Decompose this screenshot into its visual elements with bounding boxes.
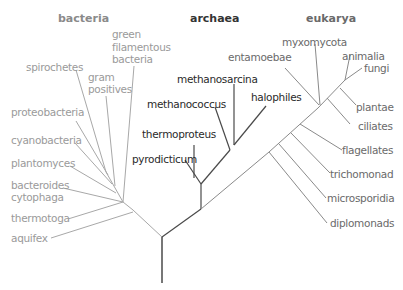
label-filamentous: filamentous (112, 41, 171, 53)
header-archaea: archaea (190, 12, 240, 25)
label-plantomyces: plantomyces (11, 157, 75, 169)
header-bacteria: bacteria (58, 12, 109, 25)
label-halophiles: halophiles (251, 91, 302, 103)
header-eukarya: eukarya (306, 12, 356, 25)
label-fungi: fungi (364, 62, 389, 74)
label-plantae: plantae (356, 101, 394, 113)
label-aquifex: aquifex (11, 232, 48, 244)
label-thermoproteus: thermoproteus (142, 128, 216, 140)
label-cytophaga: cytophaga (11, 191, 64, 203)
label-ciliates: ciliates (358, 120, 393, 132)
label-thermotoga: thermotoga (11, 212, 70, 224)
label-bacteroides: bacteroides (11, 179, 69, 191)
label-methanosarcina: methanosarcina (177, 73, 258, 85)
label-diplomonads: diplomonads (330, 217, 394, 229)
label-spirochetes: spirochetes (26, 61, 83, 73)
label-animalia: animalia (342, 50, 385, 62)
label-methanococcus: methanococcus (147, 98, 226, 110)
label-cyanobacteria: cyanobacteria (11, 134, 82, 146)
label-trichomonad: trichomonad (330, 168, 393, 180)
label-green: green (112, 28, 141, 40)
label-entamoebae: entamoebae (228, 51, 291, 63)
label-myxomycota: myxomycota (282, 36, 347, 48)
label-positives: positives (88, 83, 132, 95)
label-flagellates: flagellates (342, 144, 393, 156)
label-pyrodicticum: pyrodicticum (132, 153, 197, 165)
label-bacteria: bacteria (112, 53, 153, 65)
label-proteobacteria: proteobacteria (11, 106, 84, 118)
label-gram: gram (88, 71, 114, 83)
label-microsporidia: microsporidia (327, 192, 394, 204)
